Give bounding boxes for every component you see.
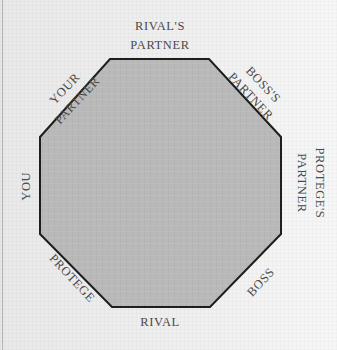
- seat-label-line1: RIVAL: [120, 316, 200, 329]
- seat-label-protege-partner: PROTEGE'S PARTNER: [296, 128, 326, 238]
- seat-label-rivals-partner: RIVAL'S PARTNER: [110, 20, 210, 51]
- seat-label-line1: PROTEGE'S: [314, 128, 327, 238]
- seat-label-rival: RIVAL: [120, 316, 200, 329]
- seat-label-line2: PARTNER: [110, 39, 210, 52]
- seat-label-line1: YOU: [20, 166, 33, 206]
- seat-label-you: YOU: [20, 166, 33, 206]
- table-octagon: [0, 0, 337, 350]
- seat-label-line2: PARTNER: [296, 128, 309, 238]
- seat-label-line1: RIVAL'S: [110, 20, 210, 33]
